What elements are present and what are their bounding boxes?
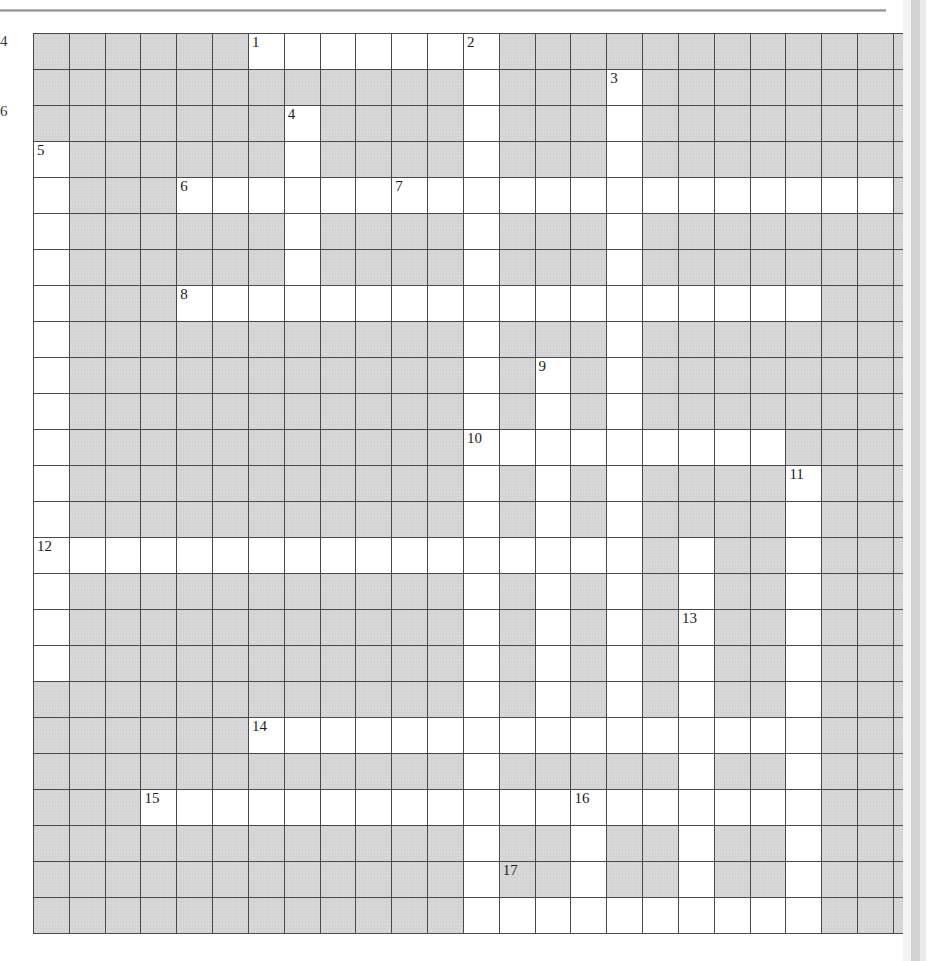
grid-cell-open[interactable]: [607, 790, 643, 826]
grid-cell-open[interactable]: [607, 610, 643, 646]
grid-cell-open[interactable]: [607, 574, 643, 610]
crossword-grid-container[interactable]: 1234567891011121314151617: [33, 33, 930, 934]
grid-cell-open[interactable]: 8: [177, 286, 213, 322]
grid-cell-open[interactable]: [248, 538, 284, 574]
grid-cell-open[interactable]: [392, 718, 428, 754]
grid-cell-open[interactable]: [750, 898, 786, 934]
grid-cell-open[interactable]: [714, 430, 750, 466]
grid-cell-open[interactable]: [786, 646, 822, 682]
grid-cell-open[interactable]: [607, 502, 643, 538]
grid-cell-open[interactable]: [428, 538, 464, 574]
grid-cell-open[interactable]: [535, 538, 571, 574]
grid-cell-open[interactable]: [392, 286, 428, 322]
grid-cell-open[interactable]: 3: [607, 70, 643, 106]
grid-cell-open[interactable]: 6: [177, 178, 213, 214]
grid-cell-open[interactable]: [571, 538, 607, 574]
grid-cell-open[interactable]: [714, 286, 750, 322]
grid-cell-open[interactable]: [499, 538, 535, 574]
grid-cell-open[interactable]: 15: [141, 790, 177, 826]
grid-cell-open[interactable]: [750, 790, 786, 826]
grid-cell-open[interactable]: [141, 538, 177, 574]
grid-cell-open[interactable]: [786, 898, 822, 934]
grid-cell-open[interactable]: [535, 898, 571, 934]
grid-cell-open[interactable]: [392, 34, 428, 70]
grid-cell-open[interactable]: [34, 574, 70, 610]
grid-cell-open[interactable]: [714, 898, 750, 934]
grid-cell-open[interactable]: [786, 718, 822, 754]
grid-cell-open[interactable]: [320, 718, 356, 754]
grid-cell-open[interactable]: [320, 286, 356, 322]
grid-cell-open[interactable]: [607, 718, 643, 754]
grid-cell-open[interactable]: [607, 394, 643, 430]
grid-cell-open[interactable]: [463, 466, 499, 502]
grid-cell-open[interactable]: [463, 574, 499, 610]
grid-cell-open[interactable]: [463, 394, 499, 430]
grid-cell-open[interactable]: [392, 790, 428, 826]
grid-cell-open[interactable]: [34, 250, 70, 286]
grid-cell-open[interactable]: [714, 790, 750, 826]
grid-cell-open[interactable]: [643, 178, 679, 214]
grid-cell-open[interactable]: [786, 574, 822, 610]
grid-cell-open[interactable]: [750, 430, 786, 466]
grid-cell-open[interactable]: [643, 718, 679, 754]
grid-cell-open[interactable]: [284, 34, 320, 70]
grid-cell-open[interactable]: [678, 754, 714, 790]
grid-cell-open[interactable]: [320, 34, 356, 70]
grid-cell-open[interactable]: [678, 538, 714, 574]
grid-cell-open[interactable]: [822, 178, 858, 214]
grid-cell-open[interactable]: [535, 718, 571, 754]
grid-cell-open[interactable]: [463, 646, 499, 682]
grid-cell-open[interactable]: [284, 718, 320, 754]
grid-cell-open[interactable]: [499, 790, 535, 826]
grid-cell-open[interactable]: [643, 898, 679, 934]
grid-cell-open[interactable]: [607, 250, 643, 286]
grid-cell-open[interactable]: [786, 826, 822, 862]
grid-cell-open[interactable]: [34, 322, 70, 358]
grid-cell-open[interactable]: [786, 790, 822, 826]
grid-cell-open[interactable]: [213, 286, 249, 322]
grid-cell-open[interactable]: [356, 34, 392, 70]
grid-cell-open[interactable]: [607, 178, 643, 214]
grid-cell-open[interactable]: [607, 106, 643, 142]
grid-cell-open[interactable]: [535, 394, 571, 430]
grid-cell-open[interactable]: [463, 790, 499, 826]
grid-cell-open[interactable]: [428, 286, 464, 322]
grid-cell-open[interactable]: [428, 178, 464, 214]
grid-cell-open[interactable]: [356, 178, 392, 214]
grid-cell-open[interactable]: [643, 790, 679, 826]
grid-cell-open[interactable]: [678, 286, 714, 322]
grid-cell-open[interactable]: [463, 286, 499, 322]
grid-cell-open[interactable]: 11: [786, 466, 822, 502]
grid-cell-open[interactable]: [34, 394, 70, 430]
grid-cell-open[interactable]: [786, 862, 822, 898]
grid-cell-open[interactable]: [463, 538, 499, 574]
grid-cell-open[interactable]: [463, 502, 499, 538]
grid-cell-open[interactable]: [678, 898, 714, 934]
grid-cell-open[interactable]: [607, 358, 643, 394]
grid-cell-open[interactable]: [499, 898, 535, 934]
grid-cell-open[interactable]: [284, 214, 320, 250]
grid-cell-open[interactable]: [607, 322, 643, 358]
grid-cell-open[interactable]: [750, 718, 786, 754]
grid-cell-open[interactable]: [356, 718, 392, 754]
grid-cell-open[interactable]: [463, 826, 499, 862]
grid-cell-open[interactable]: 13: [678, 610, 714, 646]
grid-cell-open[interactable]: [858, 178, 894, 214]
grid-cell-open[interactable]: [678, 790, 714, 826]
grid-cell-open[interactable]: [750, 178, 786, 214]
grid-cell-open[interactable]: [571, 898, 607, 934]
grid-cell-open[interactable]: [607, 538, 643, 574]
grid-cell-open[interactable]: [463, 898, 499, 934]
grid-cell-open[interactable]: [463, 142, 499, 178]
grid-cell-open[interactable]: [284, 178, 320, 214]
grid-cell-open[interactable]: [177, 538, 213, 574]
grid-cell-open[interactable]: [499, 430, 535, 466]
grid-cell-open[interactable]: [248, 178, 284, 214]
grid-cell-open[interactable]: [428, 34, 464, 70]
grid-cell-open[interactable]: [643, 430, 679, 466]
grid-cell-open[interactable]: [284, 142, 320, 178]
grid-cell-open[interactable]: [678, 178, 714, 214]
grid-cell-open[interactable]: [535, 610, 571, 646]
grid-cell-open[interactable]: [643, 286, 679, 322]
grid-cell-open[interactable]: [786, 178, 822, 214]
